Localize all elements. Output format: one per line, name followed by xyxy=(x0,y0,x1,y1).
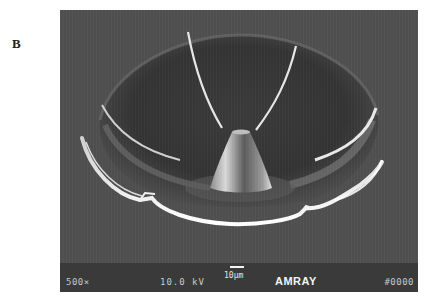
panel-label: B xyxy=(12,36,21,52)
instrument-brand: AMRAY xyxy=(275,275,317,287)
scale-bar xyxy=(230,266,244,268)
scale-bar-label: 10µm xyxy=(224,271,243,280)
voltage-label: 10.0 kV xyxy=(160,277,205,287)
magnification-label: 500× xyxy=(66,277,90,287)
sem-scene xyxy=(60,10,418,263)
image-number: #0000 xyxy=(384,277,414,287)
sem-info-bar: 500× 10.0 kV 10µm AMRAY #0000 xyxy=(60,263,418,292)
sem-micrograph: 500× 10.0 kV 10µm AMRAY #0000 xyxy=(60,10,418,292)
